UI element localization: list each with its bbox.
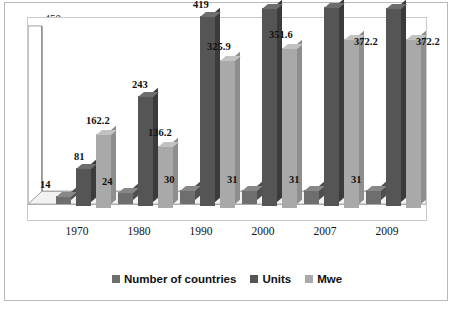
value-label-1980-countries: 24 bbox=[102, 177, 113, 187]
x-tick-1980: 1980 bbox=[109, 224, 169, 238]
x-tick-1970: 1970 bbox=[47, 224, 107, 238]
bar-group-1980: 24 243 136.2 bbox=[118, 18, 178, 220]
x-tick-2007: 2007 bbox=[295, 224, 355, 238]
legend-swatch-icon-units bbox=[250, 275, 258, 283]
value-label-2007-units: 439 bbox=[317, 0, 333, 1]
legend-entry-mwe[interactable]: Mwe bbox=[305, 273, 342, 285]
legend-label-number-of-countries: Number of countries bbox=[124, 273, 236, 285]
value-label-2007-countries: 31 bbox=[289, 175, 300, 185]
value-label-2000-units: 436 bbox=[255, 0, 271, 2]
bar-2007-units[interactable] bbox=[324, 7, 339, 206]
bar-2007-number-of-countries[interactable] bbox=[304, 190, 319, 204]
x-tick-2000: 2000 bbox=[233, 224, 293, 238]
bar-1990-mwe[interactable] bbox=[220, 60, 235, 208]
legend-label-units: Units bbox=[262, 273, 291, 285]
value-label-1980-units: 243 bbox=[132, 80, 148, 90]
bar-group-2007: 31 439 372.2 bbox=[304, 18, 364, 220]
value-label-2009-countries: 31 bbox=[351, 175, 362, 185]
bar-1970-units[interactable] bbox=[76, 168, 91, 206]
bar-group-1970: 14 81 162.2 bbox=[56, 18, 116, 220]
bar-1980-units[interactable] bbox=[138, 96, 153, 206]
value-label-1970-mwe: 162.2 bbox=[86, 116, 110, 126]
bar-group-2009: 31 436 372.2 bbox=[366, 18, 426, 220]
bar-1970-number-of-countries[interactable] bbox=[56, 196, 71, 204]
bar-group-2000: 31 436 351.6 bbox=[242, 18, 302, 220]
legend-entry-number-of-countries[interactable]: Number of countries bbox=[112, 273, 236, 285]
x-tick-1990: 1990 bbox=[171, 224, 231, 238]
x-tick-2009: 2009 bbox=[357, 224, 417, 238]
bar-2009-mwe[interactable] bbox=[406, 39, 421, 208]
value-label-2000-countries: 31 bbox=[227, 175, 238, 185]
x-axis: 1970 1980 1990 2000 2007 2009 bbox=[27, 224, 427, 242]
value-label-2000-mwe: 351.6 bbox=[269, 30, 293, 40]
value-label-1990-mwe: 325.9 bbox=[207, 42, 231, 52]
bar-1980-number-of-countries[interactable] bbox=[118, 192, 133, 204]
legend-swatch-icon-number-of-countries bbox=[112, 275, 120, 283]
value-label-2009-units: 436 bbox=[379, 0, 395, 2]
value-label-1990-countries: 30 bbox=[164, 175, 175, 185]
bar-2009-units[interactable] bbox=[386, 8, 401, 206]
bars-layer: 14 81 162.2 bbox=[28, 18, 426, 220]
legend-entry-units[interactable]: Units bbox=[250, 273, 291, 285]
legend-swatch-icon-mwe bbox=[305, 275, 313, 283]
legend-label-mwe: Mwe bbox=[317, 273, 342, 285]
bar-1970-mwe[interactable] bbox=[96, 134, 111, 208]
plot-area: 14 81 162.2 bbox=[27, 17, 427, 221]
value-label-1990-units: 419 bbox=[193, 0, 209, 10]
value-label-1970-units: 81 bbox=[74, 152, 85, 162]
bar-2009-number-of-countries[interactable] bbox=[366, 190, 381, 204]
chart-legend: Number of countries Units Mwe bbox=[5, 273, 449, 285]
value-label-1970-countries: 14 bbox=[40, 180, 51, 190]
chart-frame: 450 400 350 300 250 200 150 100 50 0 bbox=[4, 2, 448, 301]
bar-1990-number-of-countries[interactable] bbox=[180, 190, 195, 204]
value-label-2009-mwe: 372.2 bbox=[416, 37, 440, 47]
bar-group-1990: 30 419 325.9 bbox=[180, 18, 240, 220]
bar-2000-number-of-countries[interactable] bbox=[242, 190, 257, 204]
value-label-1980-mwe: 136.2 bbox=[148, 128, 172, 138]
